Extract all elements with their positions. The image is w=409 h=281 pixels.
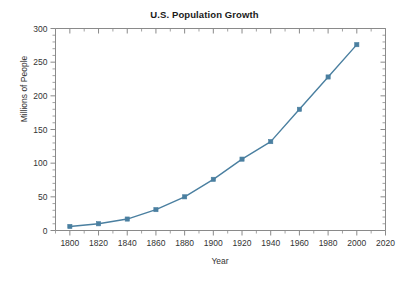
x-tick-label: 1880 <box>175 238 194 248</box>
data-series-line <box>70 45 357 227</box>
x-tick-label: 2020 <box>376 238 395 248</box>
data-point-marker <box>125 217 129 221</box>
data-point-marker <box>96 222 100 226</box>
data-point-marker <box>355 43 359 47</box>
y-tick-label: 300 <box>33 24 47 34</box>
y-tick-label: 250 <box>33 57 47 67</box>
data-point-marker <box>68 224 72 228</box>
x-tick-label: 1920 <box>233 238 252 248</box>
x-tick-label: 1940 <box>261 238 280 248</box>
x-tick-label: 1800 <box>60 238 79 248</box>
y-tick-label: 150 <box>33 125 47 135</box>
x-tick-label: 1980 <box>319 238 338 248</box>
chart-figure: U.S. Population Growth 05010015020025030… <box>0 0 409 281</box>
data-point-marker <box>154 208 158 212</box>
y-tick-label: 200 <box>33 91 47 101</box>
x-tick-label: 1820 <box>89 238 108 248</box>
y-tick-label: 100 <box>33 158 47 168</box>
y-tick-label: 50 <box>38 192 48 202</box>
data-point-marker <box>269 140 273 144</box>
plot-canvas: 0501001502002503001800182018401860188019… <box>0 0 409 281</box>
data-point-marker <box>297 107 301 111</box>
x-tick-label: 1960 <box>290 238 309 248</box>
data-point-marker <box>326 75 330 79</box>
x-tick-label: 2000 <box>347 238 366 248</box>
data-point-marker <box>240 157 244 161</box>
x-axis-label: Year <box>55 256 385 266</box>
x-tick-label: 1860 <box>146 238 165 248</box>
y-tick-label: 0 <box>43 226 48 236</box>
x-tick-label: 1900 <box>204 238 223 248</box>
y-axis-label: Millions of People <box>19 19 29 159</box>
x-tick-label: 1840 <box>118 238 137 248</box>
data-point-marker <box>211 177 215 181</box>
data-point-marker <box>183 195 187 199</box>
